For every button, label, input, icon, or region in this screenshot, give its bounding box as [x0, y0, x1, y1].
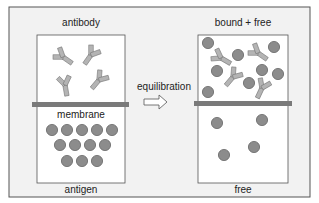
membrane-label: membrane: [37, 109, 125, 120]
diagram-canvas: [0, 0, 319, 203]
antigen-label: antigen: [37, 184, 125, 195]
antigen-icon: [84, 139, 95, 150]
antigen-icon: [272, 68, 283, 79]
antigen-icon: [202, 37, 213, 48]
antigen-icon: [76, 124, 87, 135]
antigen-icon: [218, 149, 229, 160]
free-label: free: [198, 184, 288, 195]
right-membrane: [194, 101, 292, 106]
antigen-icon: [106, 124, 117, 135]
antibody-label: antibody: [37, 17, 125, 28]
equilibration-label: equilibration: [132, 81, 196, 92]
antigen-icon: [256, 114, 267, 125]
antigen-icon: [243, 77, 254, 88]
antigen-icon: [91, 124, 102, 135]
antigen-icon: [91, 155, 102, 166]
antigen-icon: [202, 86, 213, 97]
bound-free-label: bound + free: [198, 17, 288, 28]
antigen-icon: [46, 124, 57, 135]
antigen-icon: [211, 117, 222, 128]
left-membrane: [32, 102, 129, 107]
antigen-icon: [248, 141, 259, 152]
antigen-icon: [61, 124, 72, 135]
antigen-icon: [69, 139, 80, 150]
antigen-icon: [61, 155, 72, 166]
right-chamber: [194, 35, 292, 183]
antigen-icon: [76, 155, 87, 166]
antigen-icon: [54, 139, 65, 150]
antigen-icon: [99, 139, 110, 150]
